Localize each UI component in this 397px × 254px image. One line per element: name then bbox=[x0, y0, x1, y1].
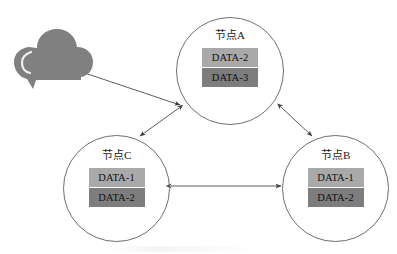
node-a[interactable]: 节点A DATA-2 DATA-3 bbox=[176, 17, 284, 125]
node-a-label: 节点A bbox=[215, 30, 246, 41]
connector-node-a-node-c bbox=[140, 108, 179, 136]
node-b-data-box-1[interactable]: DATA-1 bbox=[308, 168, 364, 187]
node-c[interactable]: 节点C DATA-1 DATA-2 bbox=[63, 135, 170, 242]
cloud-icon bbox=[11, 26, 97, 92]
node-a-data-box-1[interactable]: DATA-2 bbox=[202, 48, 258, 67]
node-b-data-box-2[interactable]: DATA-2 bbox=[308, 188, 364, 207]
node-c-data-box-2[interactable]: DATA-2 bbox=[89, 188, 145, 207]
node-b-label: 节点B bbox=[321, 150, 351, 161]
node-b-data-stack: DATA-1 DATA-2 bbox=[308, 168, 364, 207]
node-a-data-stack: DATA-2 DATA-3 bbox=[202, 48, 258, 87]
node-a-data-box-2[interactable]: DATA-3 bbox=[202, 68, 258, 87]
node-b[interactable]: 节点B DATA-1 DATA-2 bbox=[282, 135, 389, 242]
connector-node-a-node-b bbox=[281, 107, 312, 136]
node-c-data-box-1[interactable]: DATA-1 bbox=[89, 168, 145, 187]
page-artifact bbox=[110, 246, 260, 252]
node-c-label: 节点C bbox=[102, 150, 132, 161]
node-c-data-stack: DATA-1 DATA-2 bbox=[89, 168, 145, 207]
